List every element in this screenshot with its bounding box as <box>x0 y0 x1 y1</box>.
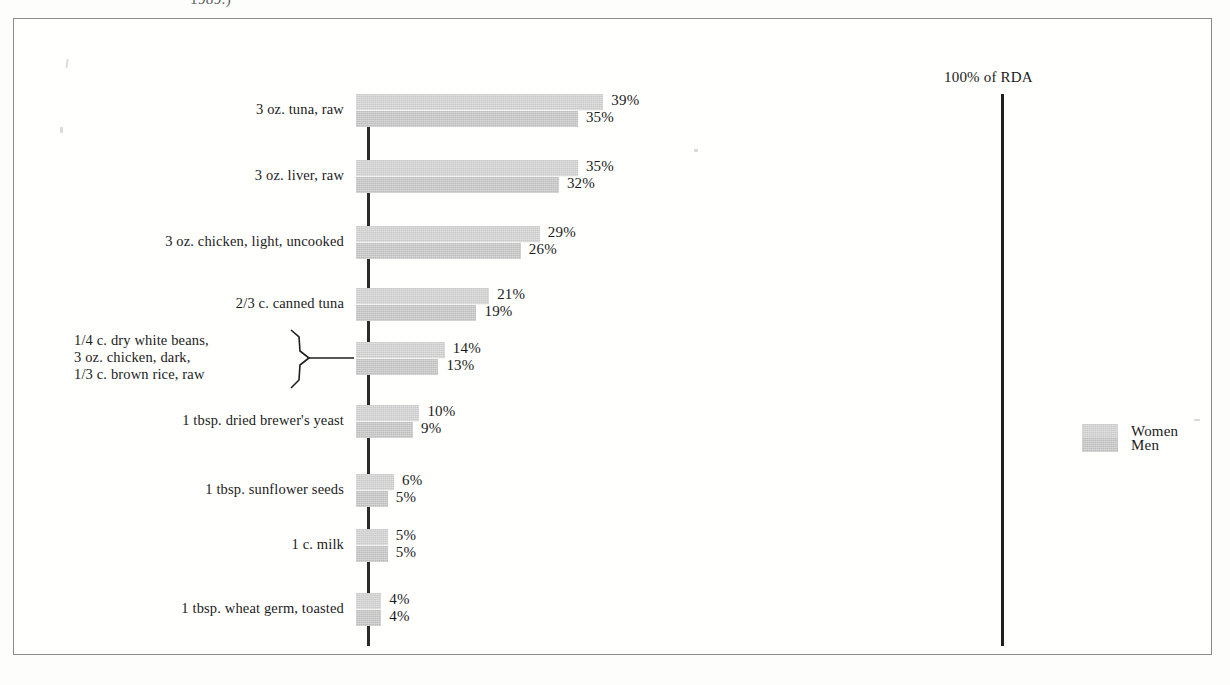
row-label-line: 3 oz. chicken, dark, <box>74 349 283 366</box>
bar-men: 4% <box>356 610 381 626</box>
row-label-line: 1 tbsp. dried brewer's yeast <box>74 412 344 429</box>
caption-fragment: 1989.) <box>190 0 231 8</box>
row-label-line: 1 tbsp. wheat germ, toasted <box>74 600 344 617</box>
row-label: 1/4 c. dry white beans,3 oz. chicken, da… <box>74 332 283 383</box>
row-label-line: 1/4 c. dry white beans, <box>74 332 283 349</box>
scan-speck <box>1194 419 1200 421</box>
legend: Women Men <box>1082 424 1178 452</box>
bar-group: 21%19% <box>356 288 489 321</box>
legend-swatch-women <box>1082 424 1118 438</box>
bar-women: 10% <box>356 405 419 421</box>
bar-value-label: 4% <box>389 608 409 625</box>
row-label-line: 3 oz. liver, raw <box>74 167 344 184</box>
bar-group: 14%13% <box>356 342 445 375</box>
bar-men: 9% <box>356 422 413 438</box>
bar-value-label: 26% <box>529 241 557 258</box>
bar-group: 4%4% <box>356 593 381 626</box>
bar-men: 5% <box>356 491 388 507</box>
scan-speck <box>694 149 698 152</box>
bar-women: 21% <box>356 288 489 304</box>
rda-marker-line <box>1001 94 1004 646</box>
bar-women: 35% <box>356 160 578 176</box>
bar-group: 35%32% <box>356 160 578 193</box>
row-label-line: 1 c. milk <box>74 536 344 553</box>
row-label: 1 tbsp. wheat germ, toasted <box>74 600 344 617</box>
bar-value-label: 4% <box>389 591 409 608</box>
bar-value-label: 19% <box>484 303 512 320</box>
bar-group: 6%5% <box>356 474 394 507</box>
row-label: 3 oz. tuna, raw <box>74 101 344 118</box>
bar-value-label: 6% <box>402 472 422 489</box>
bar-value-label: 5% <box>396 527 416 544</box>
bar-women: 6% <box>356 474 394 490</box>
bar-group: 5%5% <box>356 529 388 562</box>
bar-men: 32% <box>356 177 559 193</box>
row-label: 3 oz. chicken, light, uncooked <box>74 233 344 250</box>
figure-frame: 100% of RDA 3 oz. tuna, raw39%35%3 oz. l… <box>13 18 1212 655</box>
bar-group: 29%26% <box>356 226 540 259</box>
row-label-line: 1 tbsp. sunflower seeds <box>74 481 344 498</box>
row-label-line: 3 oz. tuna, raw <box>74 101 344 118</box>
row-label-line: 2/3 c. canned tuna <box>74 295 344 312</box>
scan-speck <box>65 59 68 68</box>
row-label: 2/3 c. canned tuna <box>74 295 344 312</box>
bar-value-label: 39% <box>611 92 639 109</box>
bar-value-label: 35% <box>586 109 614 126</box>
row-label: 1 tbsp. sunflower seeds <box>74 481 344 498</box>
bar-value-label: 13% <box>446 357 474 374</box>
row-label-line: 1/3 c. brown rice, raw <box>74 366 283 383</box>
bar-men: 35% <box>356 111 578 127</box>
bar-men: 13% <box>356 359 438 375</box>
bar-women: 14% <box>356 342 445 358</box>
row-label: 1 c. milk <box>74 536 344 553</box>
legend-item-men: Men <box>1082 438 1178 452</box>
group-brace-icon <box>287 327 356 391</box>
bar-men: 5% <box>356 546 388 562</box>
bar-women: 4% <box>356 593 381 609</box>
row-label: 1 tbsp. dried brewer's yeast <box>74 412 344 429</box>
bar-value-label: 10% <box>427 403 455 420</box>
bar-men: 19% <box>356 305 476 321</box>
bar-women: 29% <box>356 226 540 242</box>
bar-value-label: 5% <box>396 489 416 506</box>
bar-women: 5% <box>356 529 388 545</box>
bar-value-label: 32% <box>567 175 595 192</box>
bar-group: 39%35% <box>356 94 603 127</box>
bar-value-label: 14% <box>453 340 481 357</box>
bar-value-label: 29% <box>548 224 576 241</box>
legend-label-men: Men <box>1131 437 1159 454</box>
legend-swatch-men <box>1082 438 1118 452</box>
row-label-line: 3 oz. chicken, light, uncooked <box>74 233 344 250</box>
bar-group: 10%9% <box>356 405 419 438</box>
scan-speck <box>60 127 63 133</box>
bar-value-label: 21% <box>497 286 525 303</box>
bar-men: 26% <box>356 243 521 259</box>
rda-marker-label: 100% of RDA <box>944 69 1033 86</box>
row-label: 3 oz. liver, raw <box>74 167 344 184</box>
bar-value-label: 35% <box>586 158 614 175</box>
bar-value-label: 5% <box>396 544 416 561</box>
bar-women: 39% <box>356 94 603 110</box>
bar-value-label: 9% <box>421 420 441 437</box>
